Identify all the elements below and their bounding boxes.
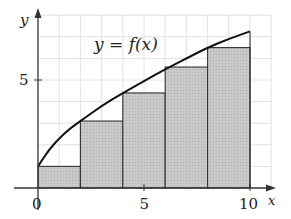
riemann-rectangle xyxy=(165,67,207,188)
x-axis-label: x xyxy=(268,193,276,208)
y-axis-arrow-icon xyxy=(35,8,42,18)
riemann-rectangle xyxy=(123,93,165,188)
function-label: y = f(x) xyxy=(93,34,158,54)
riemann-rectangle xyxy=(80,121,122,188)
riemann-rectangle xyxy=(208,48,250,188)
y-axis-label: y xyxy=(19,11,29,29)
x-tick-label: 5 xyxy=(140,195,150,213)
y-tick-label: 5 xyxy=(19,71,29,89)
riemann-rectangle xyxy=(38,166,80,188)
x-tick-label: 10 xyxy=(239,195,258,213)
riemann-sum-chart: 05105yxy = f(x) xyxy=(0,0,291,219)
x-tick-label: 0 xyxy=(32,195,42,213)
